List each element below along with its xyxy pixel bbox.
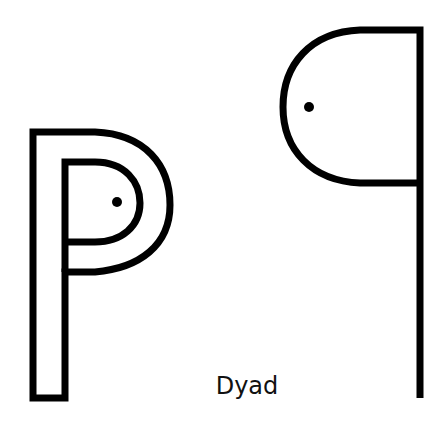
- right-glyph: [283, 30, 420, 398]
- caption-text: Dyad: [216, 372, 279, 400]
- right-dot: [304, 102, 314, 112]
- caption: Dyad: [0, 372, 446, 400]
- left-glyph: [33, 132, 170, 398]
- left-dot: [112, 197, 122, 207]
- dyad-diagram: [0, 0, 446, 433]
